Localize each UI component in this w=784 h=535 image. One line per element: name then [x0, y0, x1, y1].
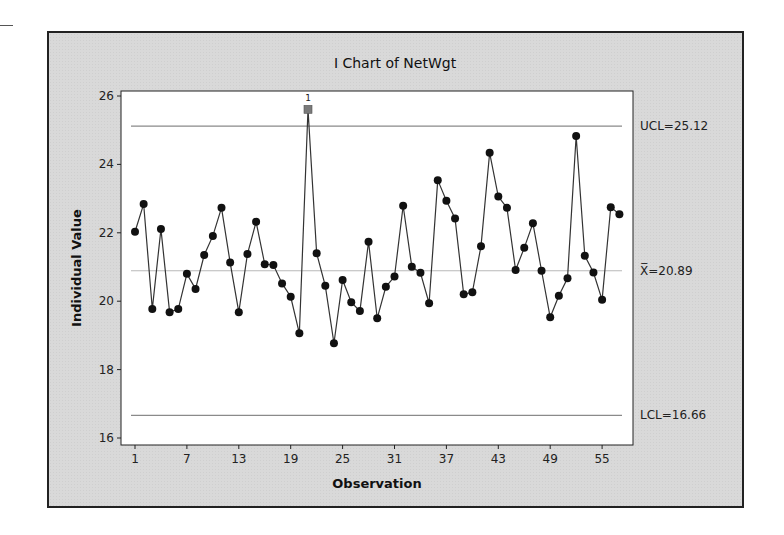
- y-tick-label: 20: [99, 294, 114, 308]
- data-point: [174, 305, 182, 313]
- data-point: [365, 238, 373, 246]
- data-point: [140, 200, 148, 208]
- data-point: [183, 270, 191, 278]
- y-tick-label: 16: [99, 431, 114, 445]
- data-point: [261, 260, 269, 268]
- data-point: [468, 288, 476, 296]
- x-tick-label: 43: [491, 452, 506, 466]
- data-point: [339, 276, 347, 284]
- data-point: [477, 242, 485, 250]
- data-point: [416, 269, 424, 277]
- x-tick-label: 25: [335, 452, 350, 466]
- x-tick-label: 37: [439, 452, 454, 466]
- data-point: [546, 313, 554, 321]
- data-point: [451, 214, 459, 222]
- data-point: [166, 308, 174, 316]
- out-of-control-marker: [304, 105, 312, 113]
- chart-title: I Chart of NetWgt: [334, 55, 457, 71]
- data-point: [218, 204, 226, 212]
- data-point: [434, 176, 442, 184]
- data-point: [373, 314, 381, 322]
- x-tick-label: 31: [387, 452, 402, 466]
- x-tick-label: 1: [131, 452, 139, 466]
- data-point: [157, 225, 165, 233]
- x-tick-label: 13: [231, 452, 246, 466]
- data-point: [243, 250, 251, 258]
- data-point: [382, 283, 390, 291]
- data-point: [460, 290, 468, 298]
- data-point: [425, 299, 433, 307]
- data-point: [321, 282, 329, 290]
- i-chart: I Chart of NetWgt 161820222426 171319253…: [0, 0, 784, 535]
- data-point: [295, 329, 303, 337]
- data-point: [598, 296, 606, 304]
- data-point: [503, 204, 511, 212]
- data-point: [391, 273, 399, 281]
- data-point: [287, 293, 295, 301]
- ucl-label: UCL=25.12: [640, 119, 708, 133]
- x-axis: 171319253137434955: [131, 445, 610, 466]
- data-point: [131, 228, 139, 236]
- x-tick-label: 7: [183, 452, 191, 466]
- data-point: [486, 149, 494, 157]
- y-axis-label: Individual Value: [69, 209, 84, 327]
- data-point: [399, 202, 407, 210]
- data-point: [572, 132, 580, 140]
- data-point: [520, 244, 528, 252]
- test-failure-label: 1: [305, 93, 311, 103]
- data-point: [330, 339, 338, 347]
- data-point: [252, 218, 260, 226]
- data-point: [494, 193, 502, 201]
- control-limit-labels: UCL=25.12 X̅=20.89 LCL=16.66: [640, 119, 708, 422]
- data-point: [564, 274, 572, 282]
- data-point: [356, 307, 364, 315]
- x-axis-label: Observation: [332, 476, 421, 491]
- x-tick-label: 19: [283, 452, 298, 466]
- data-point: [512, 266, 520, 274]
- x-tick-label: 55: [594, 452, 609, 466]
- data-point: [209, 232, 217, 240]
- y-tick-label: 18: [99, 363, 114, 377]
- data-point: [581, 252, 589, 260]
- mean-label: X̅=20.89: [640, 263, 693, 278]
- data-point: [442, 197, 450, 205]
- data-point: [555, 292, 563, 300]
- y-tick-label: 26: [99, 89, 114, 103]
- plot-area: [121, 91, 633, 445]
- data-point: [589, 268, 597, 276]
- data-point: [200, 251, 208, 259]
- data-point: [529, 219, 537, 227]
- data-point: [607, 203, 615, 211]
- lcl-label: LCL=16.66: [640, 408, 706, 422]
- data-point: [313, 249, 321, 257]
- data-point: [148, 305, 156, 313]
- y-tick-label: 24: [99, 157, 114, 171]
- y-tick-label: 22: [99, 226, 114, 240]
- data-point: [269, 261, 277, 269]
- data-point: [347, 298, 355, 306]
- data-point: [408, 263, 416, 271]
- y-axis: 161820222426: [99, 89, 121, 445]
- data-point: [615, 210, 623, 218]
- data-point: [235, 308, 243, 316]
- data-point: [192, 285, 200, 293]
- data-point: [278, 279, 286, 287]
- data-point: [226, 259, 234, 267]
- data-point: [538, 267, 546, 275]
- x-tick-label: 49: [543, 452, 558, 466]
